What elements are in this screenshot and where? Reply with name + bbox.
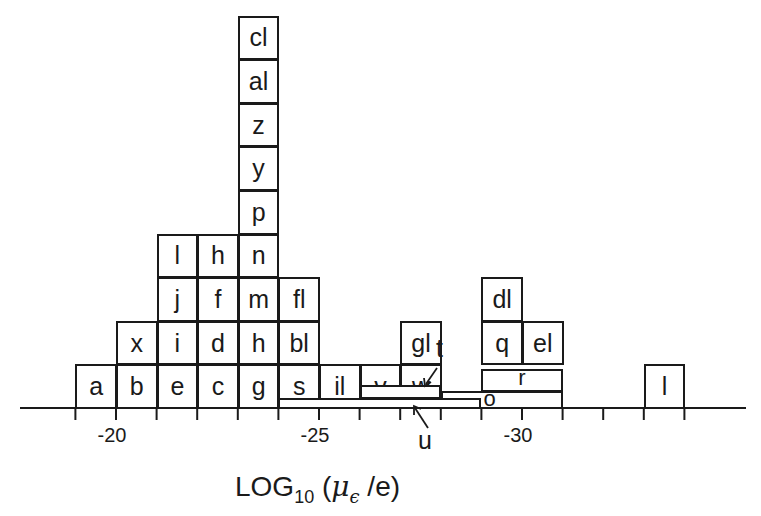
box-a: a xyxy=(75,364,117,409)
annotation-u-label: u xyxy=(418,426,432,455)
x-axis-label-rest: /e) xyxy=(360,471,400,502)
box-y: y xyxy=(238,146,280,191)
box-n: n xyxy=(238,234,280,279)
box-i: i xyxy=(157,321,199,366)
box-al: al xyxy=(238,59,280,104)
box-m: m xyxy=(238,277,280,322)
box-e: e xyxy=(157,364,199,409)
box-x: x xyxy=(116,321,158,366)
range-bar-r-label: r xyxy=(518,365,525,391)
box-p: p xyxy=(238,190,280,235)
x-axis-label-paren: ( xyxy=(314,471,331,502)
range-bar-r: r xyxy=(481,369,562,392)
tick-label: -20 xyxy=(98,424,127,447)
annotation-t-label: t xyxy=(436,334,443,363)
x-axis-label-mu-sub: ϵ xyxy=(349,486,359,507)
x-axis-label-main: LOG xyxy=(235,471,294,502)
range-bar-u xyxy=(278,398,481,409)
chart: abxeijlcdfhghmnpyzalclsblflilvwglqdlell … xyxy=(0,0,761,516)
box-z: z xyxy=(238,103,280,148)
box-h: h xyxy=(197,234,239,279)
box-b: b xyxy=(116,364,158,409)
x-axis-label-mu: μ xyxy=(331,470,349,503)
x-axis-label-sub: 10 xyxy=(294,487,314,507)
box-g: g xyxy=(238,364,280,409)
box-el: el xyxy=(522,321,564,366)
box-c: c xyxy=(197,364,239,409)
box-bl: bl xyxy=(278,321,320,366)
box-q: q xyxy=(481,321,523,366)
box-d: d xyxy=(197,321,239,366)
x-axis-label: LOG10 (μϵ /e) xyxy=(235,470,400,508)
box-l: l xyxy=(644,364,686,409)
range-bar-t xyxy=(360,385,441,399)
box-l: l xyxy=(157,234,199,279)
box-fl: fl xyxy=(278,277,320,322)
box-h: h xyxy=(238,321,280,366)
box-f: f xyxy=(197,277,239,322)
box-cl: cl xyxy=(238,16,280,61)
box-dl: dl xyxy=(481,277,523,322)
tick-label: -25 xyxy=(301,424,330,447)
box-j: j xyxy=(157,277,199,322)
tick-label: -30 xyxy=(504,424,533,447)
